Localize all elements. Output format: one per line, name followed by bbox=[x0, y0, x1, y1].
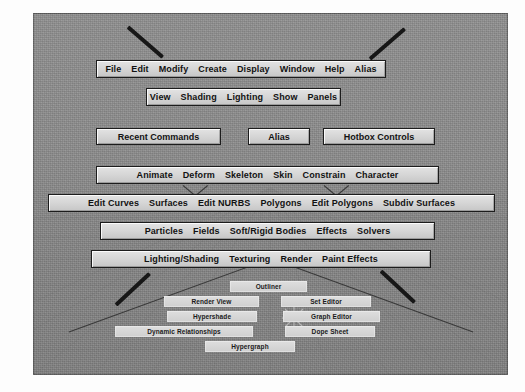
menu-item-window[interactable]: Window bbox=[275, 65, 320, 74]
dynamics-menu-row[interactable]: Particles Fields Soft/Rigid Bodies Effec… bbox=[100, 222, 435, 240]
hotbox-stroke-top-right bbox=[369, 27, 406, 60]
dope-sheet-tile[interactable]: Dope Sheet bbox=[285, 326, 375, 337]
menu-item-display[interactable]: Display bbox=[232, 65, 275, 74]
menu-item-edit-polygons[interactable]: Edit Polygons bbox=[307, 199, 378, 208]
hotbox-controls-label: Hotbox Controls bbox=[344, 132, 415, 142]
hotbox-stroke-top-left bbox=[127, 25, 164, 58]
dope-sheet-label: Dope Sheet bbox=[312, 328, 349, 335]
center-box-row: Recent Commands Alias Hotbox Controls bbox=[33, 128, 508, 145]
maya-viewport[interactable]: File Edit Modify Create Display Window H… bbox=[33, 13, 508, 375]
menu-item-view[interactable]: View bbox=[145, 93, 176, 102]
hypergraph-tile[interactable]: Hypergraph bbox=[205, 341, 295, 352]
menu-item-texturing[interactable]: Texturing bbox=[224, 255, 275, 264]
outliner-tile[interactable]: Outliner bbox=[230, 281, 307, 292]
hypergraph-label: Hypergraph bbox=[231, 343, 268, 350]
menu-item-lighting[interactable]: Lighting bbox=[222, 93, 268, 102]
hotbox-stroke-bottom-left bbox=[115, 272, 151, 306]
menu-item-edit-nurbs[interactable]: Edit NURBS bbox=[193, 199, 256, 208]
menu-item-particles[interactable]: Particles bbox=[140, 227, 188, 236]
menu-item-soft-rigid-bodies[interactable]: Soft/Rigid Bodies bbox=[225, 227, 312, 236]
menu-item-constrain[interactable]: Constrain bbox=[298, 171, 351, 180]
animation-menu-row[interactable]: Animate Deform Skeleton Skin Constrain C… bbox=[96, 166, 439, 184]
hotbox-controls-box[interactable]: Hotbox Controls bbox=[323, 128, 435, 145]
menu-item-effects[interactable]: Effects bbox=[311, 227, 352, 236]
menu-item-character[interactable]: Character bbox=[351, 171, 404, 180]
outliner-label: Outliner bbox=[256, 283, 282, 290]
menu-item-create[interactable]: Create bbox=[193, 65, 232, 74]
menu-item-lighting-shading[interactable]: Lighting/Shading bbox=[139, 255, 224, 264]
render-view-label: Render View bbox=[192, 298, 232, 305]
recent-commands-box[interactable]: Recent Commands bbox=[96, 128, 221, 145]
menu-item-animate[interactable]: Animate bbox=[132, 171, 178, 180]
dynamic-relationships-label: Dynamic Relationships bbox=[147, 328, 221, 335]
menu-item-edit-curves[interactable]: Edit Curves bbox=[83, 199, 144, 208]
menu-item-alias[interactable]: Alias bbox=[350, 65, 382, 74]
modeling-menu-row[interactable]: Edit Curves Surfaces Edit NURBS Polygons… bbox=[48, 194, 495, 212]
menu-item-deform[interactable]: Deform bbox=[178, 171, 220, 180]
menu-item-help[interactable]: Help bbox=[320, 65, 350, 74]
menu-item-render[interactable]: Render bbox=[275, 255, 317, 264]
set-editor-tile[interactable]: Set Editor bbox=[281, 296, 371, 307]
menu-item-show[interactable]: Show bbox=[268, 93, 302, 102]
alias-label: Alias bbox=[268, 132, 290, 142]
menu-item-solvers[interactable]: Solvers bbox=[352, 227, 395, 236]
menu-item-subdiv-surfaces[interactable]: Subdiv Surfaces bbox=[378, 199, 460, 208]
page-root: File Edit Modify Create Display Window H… bbox=[0, 0, 525, 392]
main-menu-row[interactable]: File Edit Modify Create Display Window H… bbox=[96, 60, 386, 78]
menu-item-polygons[interactable]: Polygons bbox=[255, 199, 306, 208]
render-view-tile[interactable]: Render View bbox=[164, 296, 259, 307]
menu-item-file[interactable]: File bbox=[100, 65, 126, 74]
recent-commands-label: Recent Commands bbox=[118, 132, 200, 142]
hypershade-tile[interactable]: Hypershade bbox=[167, 311, 257, 322]
set-editor-label: Set Editor bbox=[310, 298, 342, 305]
hypershade-label: Hypershade bbox=[193, 313, 231, 320]
menu-item-paint-effects[interactable]: Paint Effects bbox=[317, 255, 383, 264]
alias-box[interactable]: Alias bbox=[248, 128, 310, 145]
dynamic-relationships-tile[interactable]: Dynamic Relationships bbox=[115, 326, 253, 337]
menu-item-skin[interactable]: Skin bbox=[268, 171, 297, 180]
menu-item-modify[interactable]: Modify bbox=[154, 65, 194, 74]
graph-editor-label: Graph Editor bbox=[311, 313, 352, 320]
menu-item-fields[interactable]: Fields bbox=[188, 227, 225, 236]
panel-menu-row[interactable]: View Shading Lighting Show Panels bbox=[146, 88, 341, 106]
menu-item-panels[interactable]: Panels bbox=[303, 93, 343, 102]
graph-editor-tile[interactable]: Graph Editor bbox=[283, 311, 380, 322]
menu-item-shading[interactable]: Shading bbox=[176, 93, 222, 102]
menu-item-surfaces[interactable]: Surfaces bbox=[144, 199, 193, 208]
menu-item-skeleton[interactable]: Skeleton bbox=[220, 171, 268, 180]
rendering-menu-row[interactable]: Lighting/Shading Texturing Render Paint … bbox=[91, 250, 431, 268]
menu-item-edit[interactable]: Edit bbox=[126, 65, 153, 74]
